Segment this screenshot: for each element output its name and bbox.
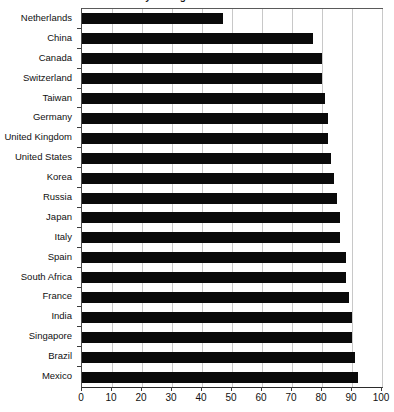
- category-label: Korea: [0, 172, 72, 182]
- category-label: Russia: [0, 192, 72, 202]
- category-label: United Kingdom: [0, 132, 72, 142]
- bar: [82, 372, 358, 383]
- value-tick-label: 70: [276, 392, 306, 404]
- bar: [82, 252, 346, 263]
- value-tick-label: 30: [156, 392, 186, 404]
- category-label: Japan: [0, 212, 72, 222]
- value-tick-label: 40: [186, 392, 216, 404]
- bar: [82, 173, 334, 184]
- value-tick-label: 60: [246, 392, 276, 404]
- value-axis: 0102030405060708090100: [81, 387, 383, 412]
- value-tick: [321, 387, 322, 391]
- bar: [82, 212, 340, 223]
- category-label: Taiwan: [0, 93, 72, 103]
- value-tick: [381, 387, 382, 391]
- bar: [82, 312, 352, 323]
- category-label: United States: [0, 152, 72, 162]
- value-tick: [111, 387, 112, 391]
- value-tick-label: 50: [216, 392, 246, 404]
- bar-series: [82, 9, 382, 387]
- value-tick-label: 100: [366, 392, 394, 404]
- category-label: Italy: [0, 232, 72, 242]
- value-tick: [81, 387, 82, 391]
- bar: [82, 272, 346, 283]
- category-label: South Africa: [0, 272, 72, 282]
- value-tick-label: 90: [336, 392, 366, 404]
- category-label: Spain: [0, 252, 72, 262]
- value-tick: [231, 387, 232, 391]
- value-tick: [141, 387, 142, 391]
- plot-area: [81, 8, 383, 388]
- category-label: Brazil: [0, 351, 72, 361]
- bar: [82, 93, 325, 104]
- bar: [82, 53, 322, 64]
- bar: [82, 133, 328, 144]
- value-tick-label: 20: [126, 392, 156, 404]
- bar: [82, 13, 223, 24]
- bar: [82, 332, 352, 343]
- category-label: India: [0, 311, 72, 321]
- bar: [82, 153, 331, 164]
- bar: [82, 292, 349, 303]
- bar: [82, 352, 355, 363]
- value-tick: [291, 387, 292, 391]
- category-label: Canada: [0, 53, 72, 63]
- bar: [82, 33, 313, 44]
- bar: [82, 232, 340, 243]
- gridline: [382, 9, 383, 387]
- category-label: Singapore: [0, 331, 72, 341]
- category-label: Germany: [0, 112, 72, 122]
- category-label: Mexico: [0, 371, 72, 381]
- bar: [82, 193, 337, 204]
- value-tick: [171, 387, 172, 391]
- bar: [82, 73, 322, 84]
- value-tick-label: 10: [96, 392, 126, 404]
- category-label: Switzerland: [0, 73, 72, 83]
- value-tick: [201, 387, 202, 391]
- value-tick-label: 80: [306, 392, 336, 404]
- bar: [82, 113, 328, 124]
- category-axis-labels: NetherlandsChinaCanadaSwitzerlandTaiwanG…: [0, 8, 76, 386]
- category-label: Netherlands: [0, 13, 72, 23]
- value-tick-label: 0: [66, 392, 96, 404]
- category-label: France: [0, 291, 72, 301]
- category-label: China: [0, 33, 72, 43]
- value-tick: [261, 387, 262, 391]
- chart-title: y During Retirement: [0, 0, 386, 8]
- value-tick: [351, 387, 352, 391]
